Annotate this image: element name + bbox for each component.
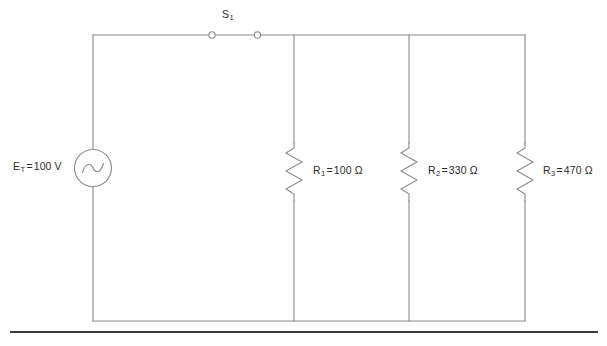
r2-subscript: 2 — [436, 169, 441, 178]
circuit-schematic — [0, 0, 607, 346]
r2-equals: = — [441, 164, 449, 176]
source-value: 100 V — [34, 160, 62, 172]
r2-designator: R — [428, 164, 436, 176]
source-equals: = — [25, 160, 33, 172]
r3-subscript: 3 — [551, 169, 556, 178]
r1-subscript: 1 — [321, 169, 326, 178]
ac-source-symbol — [75, 150, 112, 187]
r3-value: 470 — [564, 164, 582, 176]
resistor-r2-label: R2=330 Ω — [428, 165, 478, 177]
resistor-r3-label: R3=470 Ω — [543, 165, 593, 177]
r3-unit: Ω — [585, 164, 593, 176]
r3-equals: = — [556, 164, 564, 176]
switch-terminal-left[interactable] — [209, 32, 215, 38]
r3-designator: R — [543, 164, 551, 176]
switch-terminal-right[interactable] — [254, 32, 260, 38]
source-subscript: T — [20, 165, 25, 174]
resistor-symbol-r1 — [286, 143, 302, 201]
r1-unit: Ω — [355, 164, 363, 176]
r2-value: 330 — [449, 164, 467, 176]
switch-subscript: 1 — [229, 13, 234, 22]
r1-equals: = — [326, 164, 334, 176]
resistor-symbol-r3 — [517, 143, 533, 201]
resistor-r1-label: R1=100 Ω — [313, 165, 363, 177]
r1-value: 100 — [334, 164, 352, 176]
switch-label: S1 — [222, 9, 234, 21]
source-label: ET=100 V — [13, 161, 62, 173]
resistor-symbol-r2 — [401, 143, 417, 201]
r1-designator: R — [313, 164, 321, 176]
r2-unit: Ω — [470, 164, 478, 176]
circuit-diagram-canvas: ET=100 V S1 R1=100 Ω R2=330 Ω R3=470 Ω — [0, 0, 607, 346]
